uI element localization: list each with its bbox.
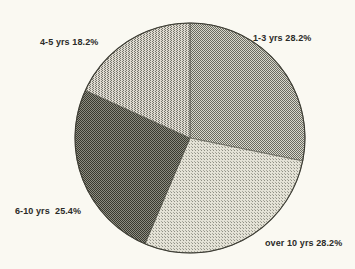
pie-label-1-3-yrs: 1-3 yrs 28.2%: [253, 33, 311, 44]
pie-chart-figure: 1-3 yrs 28.2% over 10 yrs 28.2% 6-10 yrs…: [0, 0, 355, 269]
pie-label-over-10-yrs: over 10 yrs 28.2%: [265, 238, 342, 249]
pie-label-6-10-yrs: 6-10 yrs 25.4%: [15, 206, 81, 217]
pie-label-4-5-yrs: 4-5 yrs 18.2%: [40, 37, 98, 48]
